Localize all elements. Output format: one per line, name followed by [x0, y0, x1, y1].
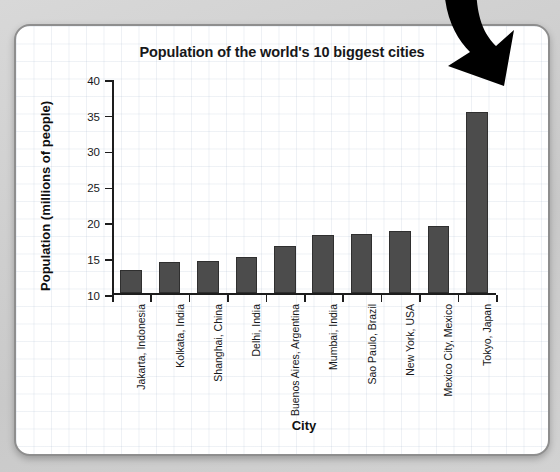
x-axis-category-label-text: Jakarta, Indonesia [135, 304, 147, 390]
x-axis-category-label-text: Kolkata, India [174, 304, 186, 368]
y-axis-tick: 15 [105, 259, 112, 261]
y-axis-title: Population (millions of people) [38, 86, 53, 306]
x-axis-tick [189, 295, 191, 302]
y-axis-tick: 10 [105, 295, 112, 297]
x-axis-tick [458, 295, 460, 302]
x-axis-category-label-text: Delhi, India [250, 304, 262, 357]
x-axis-category-label: Shanghai, China [212, 226, 224, 304]
x-axis-tick [112, 295, 114, 302]
x-axis-category-label: Mexico City, Mexico [442, 211, 454, 304]
x-axis-tick [304, 295, 306, 302]
y-axis-tick: 20 [105, 223, 112, 225]
x-axis-category-label: Buenos Aires, Argentina [289, 192, 301, 304]
y-axis-tick-label: 25 [87, 182, 100, 194]
page-root: Population of the world's 10 biggest cit… [0, 0, 560, 472]
chart-title: Population of the world's 10 biggest cit… [16, 44, 548, 60]
y-axis-tick-label: 35 [87, 111, 100, 123]
y-axis-tick: 35 [105, 116, 112, 118]
x-axis-category-label-text: Sao Paulo, Brazil [366, 304, 378, 385]
x-axis-tick [150, 295, 152, 302]
y-axis-tick-label: 10 [87, 290, 100, 302]
x-axis-tick [227, 295, 229, 302]
x-axis-tick [342, 295, 344, 302]
x-axis-tick [496, 295, 498, 302]
x-axis-category-label-text: Buenos Aires, Argentina [289, 304, 301, 416]
x-axis-category-label: Sao Paulo, Brazil [366, 223, 378, 304]
y-axis-line [112, 80, 114, 295]
y-axis-tick: 40 [105, 80, 112, 82]
x-axis-category-label: Jakarta, Indonesia [135, 218, 147, 304]
x-axis-tick [266, 295, 268, 302]
y-axis-tick: 25 [105, 188, 112, 190]
x-axis-category-label: Tokyo, Japan [481, 242, 493, 304]
x-axis-category-label-text: New York, USA [404, 304, 416, 376]
chart-card: Population of the world's 10 biggest cit… [14, 24, 550, 456]
y-axis-tick-label: 20 [87, 218, 100, 230]
plot-area: 10152025303540 Jakarta, IndonesiaKolkata… [112, 80, 496, 295]
x-axis-category-label-text: Mumbai, India [327, 304, 339, 370]
x-axis-category-label-text: Tokyo, Japan [481, 304, 493, 366]
y-axis-tick: 30 [105, 152, 112, 154]
x-axis-category-label: Delhi, India [250, 251, 262, 304]
x-axis-category-label-text: Mexico City, Mexico [442, 304, 454, 397]
x-axis-category-label-text: Shanghai, China [212, 304, 224, 382]
y-axis-tick-label: 40 [87, 75, 100, 87]
x-axis-title: City [112, 418, 496, 433]
y-axis-tick-label: 30 [87, 146, 100, 158]
y-axis-tick-label: 15 [87, 254, 100, 266]
x-axis-category-label: Mumbai, India [327, 238, 339, 304]
x-axis-category-label: New York, USA [404, 232, 416, 304]
x-axis-category-label: Kolkata, India [174, 240, 186, 304]
x-axis-tick [381, 295, 383, 302]
x-axis-tick [419, 295, 421, 302]
